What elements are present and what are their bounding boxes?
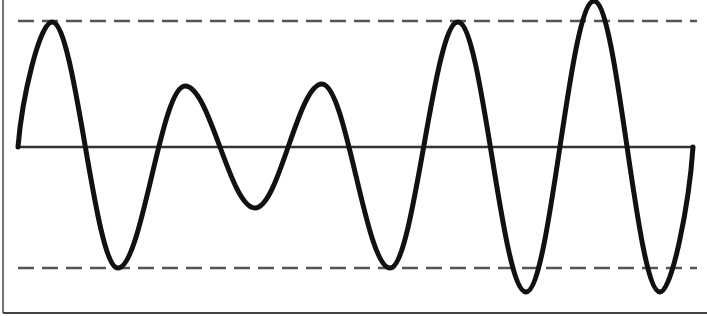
waveform-diagram [0,0,707,316]
waveform-svg [0,0,707,316]
